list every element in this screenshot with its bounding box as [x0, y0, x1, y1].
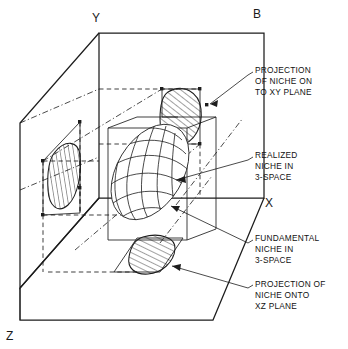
callout-xy-projection: PROJECTION OF NICHE ON TO XY PLANE — [255, 65, 315, 97]
callout-line: OF NICHE ON — [255, 76, 312, 86]
callout-line: PROJECTION OF — [255, 279, 326, 289]
panel-letter-b: B — [253, 7, 261, 21]
axis-label-y: Y — [92, 11, 100, 25]
svg-text:REALIZED NICHE IN: REALIZED NICHE IN 3-SPACE — [255, 150, 300, 182]
callout-line: NICHE ONTO — [255, 290, 310, 300]
axis-label-x: X — [265, 196, 273, 210]
projection-xz-shape — [114, 235, 183, 274]
callout-line: 3-SPACE — [255, 255, 292, 265]
svg-text:PROJECTION OF NICHE ON: PROJECTION OF NICHE ON TO XY PLANE — [255, 65, 315, 97]
callout-line: PROJECTION — [255, 65, 311, 75]
callout-line: FUNDAMENTAL — [255, 233, 320, 243]
callout-line: TO XY PLANE — [255, 87, 312, 97]
callout-line: NICHE IN — [255, 161, 293, 171]
callout-line: 3-SPACE — [255, 172, 292, 182]
svg-text:PROJECTION OF NICHE ONTO: PROJECTION OF NICHE ONTO XZ PLANE — [255, 279, 328, 311]
svg-text:FUNDAMENTAL NICHE IN: FUNDAMENTAL NICHE IN 3-SPACE — [255, 233, 322, 265]
niche-diagram-figure: Y X Z B — [0, 0, 348, 349]
callout-fundamental-niche: FUNDAMENTAL NICHE IN 3-SPACE — [255, 233, 322, 265]
projection-yz-shape — [48, 143, 81, 208]
callout-line: XZ PLANE — [255, 301, 297, 311]
callout-line: REALIZED — [255, 150, 298, 160]
callout-xz-projection: PROJECTION OF NICHE ONTO XZ PLANE — [255, 279, 328, 311]
axis-label-z: Z — [6, 329, 13, 343]
callout-line: NICHE IN — [255, 244, 293, 254]
callout-realized-niche: REALIZED NICHE IN 3-SPACE — [255, 150, 300, 182]
